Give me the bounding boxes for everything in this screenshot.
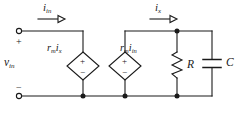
dependent-source-2-driving-subscript: in bbox=[132, 47, 137, 54]
junction-dot-bottom-source2 bbox=[123, 94, 128, 99]
branch-current-label: ix bbox=[155, 2, 161, 15]
dependent-source-1-plus: + bbox=[80, 57, 85, 66]
input-voltage-subscript: in bbox=[9, 62, 15, 70]
dependent-source-2-label: rmiin bbox=[120, 43, 137, 54]
dependent-source-1-label: rmix bbox=[47, 43, 62, 54]
terminal-positive bbox=[16, 28, 21, 33]
junction-dot-bottom-resistor bbox=[175, 94, 180, 99]
branch-current-subscript: x bbox=[158, 7, 161, 14]
junction-dot-bottom-source1 bbox=[81, 94, 86, 99]
capacitor-label: C bbox=[226, 57, 234, 69]
junction-dot-top-resistor bbox=[175, 29, 180, 34]
port-minus-sign: − bbox=[16, 83, 22, 93]
dependent-source-1-minus: − bbox=[80, 68, 85, 77]
dependent-source-2-plus: + bbox=[122, 57, 127, 66]
branch-current-arrow-head bbox=[170, 16, 177, 23]
dependent-source-1-driving-subscript: x bbox=[59, 47, 62, 54]
input-current-arrow-head bbox=[58, 16, 65, 23]
port-plus-sign: + bbox=[16, 37, 22, 47]
dependent-source-2-minus: − bbox=[122, 68, 127, 77]
resistor-zigzag bbox=[172, 52, 182, 78]
circuit-diagram: iin ix vin + − rmix + − rmiin + − R C bbox=[0, 0, 250, 114]
input-current-label: iin bbox=[43, 2, 51, 15]
input-current-subscript: in bbox=[46, 7, 51, 14]
resistor-label: R bbox=[187, 59, 194, 71]
terminal-negative bbox=[16, 93, 21, 98]
input-voltage-label: vin bbox=[4, 57, 15, 70]
